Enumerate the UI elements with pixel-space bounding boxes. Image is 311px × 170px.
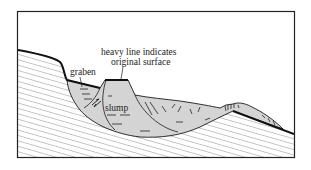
slump-diagram: graben slump heavy line indicates origin… [0,0,311,170]
slump-label: slump [105,103,128,113]
note-line-2: original surface [111,57,170,67]
note-line-1: heavy line indicates [101,47,177,57]
graben-label: graben [70,67,96,77]
